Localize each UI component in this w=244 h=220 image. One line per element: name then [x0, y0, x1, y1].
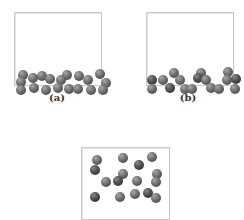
particle — [90, 165, 100, 175]
particle — [83, 75, 93, 85]
particle — [98, 85, 108, 95]
panel-label-b: (b) — [180, 92, 196, 103]
particle — [29, 83, 39, 93]
particle — [130, 189, 140, 199]
container-c-gas — [81, 147, 170, 220]
particle — [231, 74, 241, 84]
particle — [165, 83, 175, 93]
container-b-liquid — [146, 12, 234, 86]
particle — [115, 192, 125, 202]
particle — [147, 84, 157, 94]
particle — [45, 74, 55, 84]
particle — [134, 160, 144, 170]
particle — [86, 85, 96, 95]
particle — [101, 177, 111, 187]
particle — [230, 84, 240, 94]
particle — [16, 85, 26, 95]
particle — [118, 153, 128, 163]
container-a-solid — [14, 12, 102, 86]
particle — [90, 192, 100, 202]
particle — [113, 176, 123, 186]
particle — [147, 152, 157, 162]
particle — [151, 177, 161, 187]
panel-label-a: (a) — [49, 92, 65, 103]
particle — [73, 84, 83, 94]
particle — [28, 73, 38, 83]
particle — [151, 193, 161, 203]
particle — [92, 155, 102, 165]
particle — [214, 84, 224, 94]
particle — [132, 176, 142, 186]
